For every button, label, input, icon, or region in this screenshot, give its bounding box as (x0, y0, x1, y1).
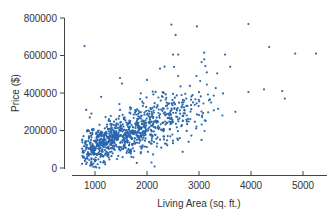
x-axis-title: Living Area (sq. ft.) (157, 198, 240, 209)
y-axis-title: Price ($) (10, 74, 21, 112)
x-tick-label: 1000 (84, 180, 107, 191)
x-tick-label: 2000 (136, 180, 159, 191)
y-tick-label: 800000 (24, 13, 58, 24)
x-tick-label: 3000 (188, 180, 211, 191)
y-axis-ticks: 0200000400000600000800000 (24, 13, 65, 174)
x-tick-label: 5000 (292, 180, 315, 191)
scatter-chart: 0200000400000600000800000 10002000300040… (0, 0, 335, 217)
data-points (81, 23, 317, 169)
y-tick-label: 600000 (24, 50, 58, 61)
y-tick-label: 200000 (24, 125, 58, 136)
x-tick-label: 4000 (240, 180, 263, 191)
x-axis-ticks: 10002000300040005000 (84, 171, 315, 191)
y-tick-label: 0 (51, 163, 57, 174)
y-tick-label: 400000 (24, 88, 58, 99)
